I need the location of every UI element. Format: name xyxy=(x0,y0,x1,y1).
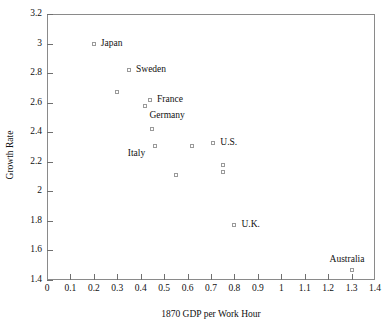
x-axis-tick xyxy=(211,274,212,280)
y-axis-tick xyxy=(47,73,53,74)
x-axis-tick xyxy=(141,274,142,280)
x-axis-tick-label: 1.1 xyxy=(292,283,318,293)
data-point-label: Germany xyxy=(149,110,184,120)
data-point-label: Italy xyxy=(128,148,145,158)
x-axis-tick-label: 0 xyxy=(34,283,60,293)
data-point xyxy=(150,127,154,131)
y-axis-tick xyxy=(47,191,53,192)
data-point-label: France xyxy=(157,94,183,104)
x-axis-tick-label: 1.3 xyxy=(339,283,365,293)
data-point-label: Australia xyxy=(330,254,365,264)
data-point xyxy=(174,173,178,177)
x-axis-tick xyxy=(117,274,118,280)
data-point-france xyxy=(148,98,152,102)
data-point-us xyxy=(211,141,215,145)
y-axis-tick-label: 2.8 xyxy=(8,67,42,77)
y-axis-tick-label: 2.2 xyxy=(8,156,42,166)
x-axis-tick xyxy=(164,274,165,280)
y-axis-tick xyxy=(47,250,53,251)
y-axis-tick xyxy=(47,221,53,222)
x-axis-tick xyxy=(94,274,95,280)
x-axis-tick-label: 0.7 xyxy=(198,283,224,293)
x-axis-tick-label: 0.4 xyxy=(128,283,154,293)
x-axis-tick-label: 1.2 xyxy=(315,283,341,293)
y-axis-tick xyxy=(47,280,53,281)
x-axis-tick-label: 0.2 xyxy=(81,283,107,293)
x-axis-tick-label: 0.6 xyxy=(175,283,201,293)
x-axis-tick xyxy=(70,274,71,280)
x-axis-tick xyxy=(188,274,189,280)
y-axis-tick xyxy=(47,162,53,163)
x-axis-title: 1870 GDP per Work Hour xyxy=(47,309,375,319)
y-axis-tick-label: 3.2 xyxy=(8,8,42,18)
x-axis-tick-label: 0.9 xyxy=(245,283,271,293)
x-axis-tick-label: 0.1 xyxy=(57,283,83,293)
data-point-label: U.K. xyxy=(241,219,259,229)
y-axis-tick-label: 2.4 xyxy=(8,126,42,136)
y-axis-tick-label: 3 xyxy=(8,38,42,48)
x-axis-tick xyxy=(234,274,235,280)
y-axis-tick xyxy=(47,132,53,133)
x-axis-tick xyxy=(305,274,306,280)
data-point-label: Sweden xyxy=(136,64,166,74)
x-axis-tick xyxy=(281,274,282,280)
data-point-label: U.S. xyxy=(220,137,237,147)
data-point-italy xyxy=(153,144,157,148)
data-point-germany xyxy=(143,104,147,108)
x-axis-tick-label: 0.8 xyxy=(221,283,247,293)
x-axis-tick-label: 0.5 xyxy=(151,283,177,293)
data-point-label: Japan xyxy=(101,38,123,48)
y-axis-tick xyxy=(47,103,53,104)
data-point xyxy=(115,90,119,94)
y-axis-tick-label: 2.6 xyxy=(8,97,42,107)
data-point-australia xyxy=(350,268,354,272)
y-axis-tick-label: 1.8 xyxy=(8,215,42,225)
x-axis-tick-label: 0.3 xyxy=(104,283,130,293)
data-point-sweden xyxy=(127,68,131,72)
data-point xyxy=(221,170,225,174)
x-axis-tick xyxy=(328,274,329,280)
scatter-chart: Growth Rate 1870 GDP per Work Hour 1.41.… xyxy=(0,0,391,335)
y-axis-tick-label: 2 xyxy=(8,185,42,195)
x-axis-tick xyxy=(258,274,259,280)
x-axis-tick xyxy=(352,274,353,280)
data-point-uk xyxy=(232,223,236,227)
y-axis-tick-label: 1.6 xyxy=(8,244,42,254)
y-axis-tick xyxy=(47,44,53,45)
y-axis-tick xyxy=(47,14,53,15)
data-point xyxy=(190,144,194,148)
plot-area xyxy=(47,14,375,280)
data-point xyxy=(221,163,225,167)
data-point-japan xyxy=(92,42,96,46)
x-axis-tick-label: 1.4 xyxy=(362,283,388,293)
x-axis-tick-label: 1 xyxy=(268,283,294,293)
